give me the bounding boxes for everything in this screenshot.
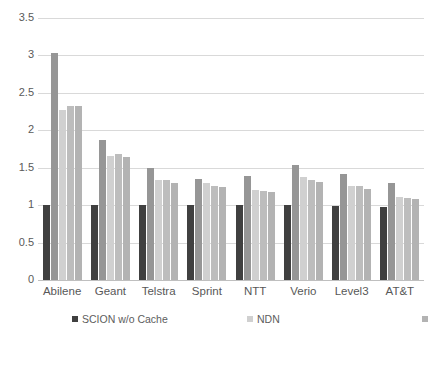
- x-axis-tick-labels: AbileneGeantTelstraSprintNTTVerioLevel3A…: [38, 283, 424, 303]
- bar: [99, 140, 106, 280]
- bar: [332, 206, 339, 280]
- bar-slot: [139, 18, 146, 280]
- bar: [244, 176, 251, 280]
- bar-slot: [404, 18, 411, 280]
- bar: [308, 180, 315, 280]
- bar: [340, 174, 347, 280]
- bar-slot: [236, 18, 243, 280]
- x-axis-tick-label: Level3: [328, 283, 376, 303]
- bar-slot: [43, 18, 50, 280]
- y-axis-tick-label: 1.5: [0, 162, 34, 173]
- bar: [268, 192, 275, 280]
- gridline: [38, 280, 424, 281]
- bar: [75, 106, 82, 280]
- bar-slot: [51, 18, 58, 280]
- bar-slot: [91, 18, 98, 280]
- y-axis-tick-label: 3: [0, 49, 34, 60]
- bar-slot: [332, 18, 339, 280]
- bar: [91, 205, 98, 280]
- bar: [203, 183, 210, 280]
- bar-slot: [340, 18, 347, 280]
- bar: [412, 199, 419, 280]
- bar-slot: [292, 18, 299, 280]
- bar: [51, 53, 58, 280]
- bar-slot: [163, 18, 170, 280]
- legend-label: SCION w/o Cache: [82, 313, 168, 325]
- x-axis-tick-label: Verio: [279, 283, 327, 303]
- bar-slot: [308, 18, 315, 280]
- legend-swatch-icon: [72, 316, 78, 322]
- bar-slot: [75, 18, 82, 280]
- bar: [364, 189, 371, 280]
- bar-slot: [412, 18, 419, 280]
- bar-group: [135, 18, 183, 280]
- bar-slot: [380, 18, 387, 280]
- bar: [380, 207, 387, 280]
- bar: [171, 183, 178, 280]
- bar-slot: [107, 18, 114, 280]
- bar-slot: [187, 18, 194, 280]
- bar-slot: [300, 18, 307, 280]
- bar-slot: [252, 18, 259, 280]
- bar: [396, 197, 403, 280]
- bar-slot: [356, 18, 363, 280]
- legend-swatch-icon: [247, 316, 253, 322]
- bar-slot: [155, 18, 162, 280]
- bar-slot: [171, 18, 178, 280]
- bar: [219, 187, 226, 280]
- y-axis-tick-label: 0: [0, 274, 34, 285]
- y-axis-tick-label: 1: [0, 199, 34, 210]
- bar-slot: [211, 18, 218, 280]
- bar-slot: [203, 18, 210, 280]
- bar: [292, 165, 299, 280]
- bar-slot: [147, 18, 154, 280]
- bar: [67, 106, 74, 280]
- bar-group: [86, 18, 134, 280]
- bar-slot: [123, 18, 130, 280]
- chart-legend: SCION w/o CacheNDNSCION w/ Edge CachingI…: [72, 311, 424, 361]
- bar-slot: [388, 18, 395, 280]
- legend-item: SCION w/ Edge Caching: [422, 311, 430, 326]
- bar: [123, 157, 130, 281]
- bar: [260, 191, 267, 280]
- bar-groups: [38, 18, 424, 280]
- bar-slot: [364, 18, 371, 280]
- x-axis-tick-label: AT&T: [376, 283, 424, 303]
- bar-group: [376, 18, 424, 280]
- bar: [284, 205, 291, 280]
- bar: [404, 198, 411, 280]
- bar-slot: [99, 18, 106, 280]
- bar: [115, 154, 122, 280]
- bar-group: [279, 18, 327, 280]
- bar: [211, 186, 218, 280]
- x-axis-tick-label: Telstra: [135, 283, 183, 303]
- bar-slot: [396, 18, 403, 280]
- bar: [59, 110, 66, 280]
- bar-slot: [260, 18, 267, 280]
- bar-slot: [284, 18, 291, 280]
- y-axis-tick-label: 2: [0, 124, 34, 135]
- bar: [316, 182, 323, 280]
- bar-group: [38, 18, 86, 280]
- bar-slot: [219, 18, 226, 280]
- bar: [155, 180, 162, 280]
- bar-slot: [195, 18, 202, 280]
- legend-item: SCION w/o Cache: [72, 311, 247, 326]
- y-axis-tick-label: 0.5: [0, 237, 34, 248]
- bar-slot: [115, 18, 122, 280]
- bar: [348, 186, 355, 280]
- bar: [43, 205, 50, 280]
- bar: [236, 205, 243, 280]
- plot-area: [38, 18, 424, 280]
- bar: [139, 205, 146, 280]
- bar-group: [231, 18, 279, 280]
- y-axis-tick-label: 2.5: [0, 87, 34, 98]
- bar-chart: 00.511.522.533.5 AbileneGeantTelstraSpri…: [0, 0, 430, 367]
- bar-group: [328, 18, 376, 280]
- bar-group: [183, 18, 231, 280]
- bar: [163, 180, 170, 280]
- bar-slot: [59, 18, 66, 280]
- bar: [356, 186, 363, 280]
- bar-slot: [244, 18, 251, 280]
- bar-slot: [316, 18, 323, 280]
